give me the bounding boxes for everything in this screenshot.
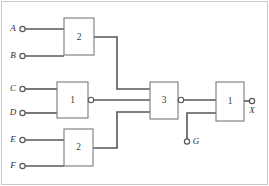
gate-top-label: 2 bbox=[77, 32, 82, 42]
gate-merge-label: 3 bbox=[162, 95, 167, 105]
wire-input-g bbox=[187, 113, 216, 139]
gate-bottom-label: 2 bbox=[76, 142, 81, 152]
gate-final-label: 1 bbox=[228, 96, 233, 106]
terminal-e[interactable] bbox=[20, 137, 25, 142]
label-input-f: F bbox=[9, 160, 16, 170]
label-input-d: D bbox=[9, 107, 17, 117]
gate-merge-inversion-bubble-icon bbox=[178, 97, 183, 102]
terminal-x[interactable] bbox=[249, 98, 254, 103]
terminal-b[interactable] bbox=[20, 53, 25, 58]
terminal-g[interactable] bbox=[184, 139, 189, 144]
gate-middle-inversion-bubble-icon bbox=[88, 97, 93, 102]
gate-middle-label: 1 bbox=[70, 95, 75, 105]
label-input-e: E bbox=[9, 134, 16, 144]
circuit-canvas: 2 1 2 3 1 A B C D E F G X bbox=[0, 0, 269, 186]
terminal-c[interactable] bbox=[20, 86, 25, 91]
label-output-x: X bbox=[248, 105, 255, 115]
logic-circuit-diagram: 2 1 2 3 1 A B C D E F G X bbox=[0, 0, 269, 186]
wire-top-gate-to-merge bbox=[94, 37, 150, 89]
label-input-a: A bbox=[9, 23, 16, 33]
terminal-d[interactable] bbox=[20, 110, 25, 115]
terminal-f[interactable] bbox=[20, 163, 25, 168]
label-input-c: C bbox=[10, 83, 17, 93]
label-input-g: G bbox=[193, 136, 200, 146]
terminal-a[interactable] bbox=[20, 26, 25, 31]
wire-bottom-gate-to-merge bbox=[93, 112, 150, 148]
label-input-b: B bbox=[10, 50, 16, 60]
